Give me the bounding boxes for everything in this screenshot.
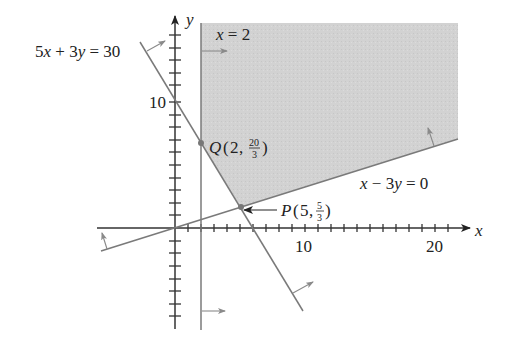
svg-text:(: ( xyxy=(293,201,299,220)
vertex-p-point xyxy=(238,204,244,210)
x-axis-label: x xyxy=(474,221,483,240)
x-axis-ticks xyxy=(188,224,448,232)
x-tick-label-20: 20 xyxy=(426,237,443,256)
y-tick-label-10: 10 xyxy=(149,93,166,112)
direction-arrow-5x-3y-bottom xyxy=(293,282,313,293)
constraint-label-x-equals-2: x = 2 xyxy=(215,25,250,44)
constraint-label-x-3y-0: x − 3y = 0 xyxy=(359,174,428,193)
direction-arrow-x3y-left xyxy=(102,233,107,249)
svg-text:): ) xyxy=(262,138,268,157)
svg-text:Q: Q xyxy=(209,138,221,157)
svg-text:,: , xyxy=(309,201,313,220)
svg-text:,: , xyxy=(239,138,243,157)
svg-text:P: P xyxy=(280,201,291,220)
direction-arrow-5x-3y-top xyxy=(147,41,165,51)
svg-text:5: 5 xyxy=(317,200,322,211)
x-tick-label-10: 10 xyxy=(295,237,312,256)
svg-text:20: 20 xyxy=(249,137,259,148)
svg-text:2: 2 xyxy=(230,138,239,157)
svg-text:(: ( xyxy=(223,138,229,157)
vertex-p-label: P ( 5 , 5 3 ) xyxy=(280,200,331,223)
svg-text:3: 3 xyxy=(252,149,257,160)
svg-text:5: 5 xyxy=(300,201,309,220)
svg-text:): ) xyxy=(325,201,331,220)
vertex-q-point xyxy=(198,140,204,146)
lp-feasible-region-diagram: y x 10 20 10 5x + 3y = 30 x = 2 x − 3y =… xyxy=(0,0,506,349)
y-axis-label: y xyxy=(184,10,194,29)
svg-text:3: 3 xyxy=(317,212,322,223)
constraint-label-5x-3y-30: 5x + 3y = 30 xyxy=(35,42,120,61)
